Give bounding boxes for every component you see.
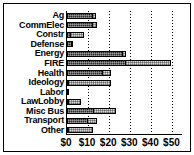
bar-energy bbox=[67, 51, 126, 57]
bar-segment-light bbox=[125, 60, 171, 66]
x-tick-usd-10: $10 bbox=[79, 137, 96, 148]
category-label-ag: Ag bbox=[9, 11, 64, 20]
bar-segment-light bbox=[68, 127, 93, 133]
category-label-lawlobby: LawLobby bbox=[9, 97, 64, 106]
bar-segment-dark bbox=[67, 70, 103, 76]
x-axis-tick-labels: $0$10$20$30$40$50 bbox=[66, 137, 182, 151]
bar-segment-dark bbox=[67, 89, 69, 95]
gridline-usd-40 bbox=[151, 11, 152, 134]
bar-misc-bus bbox=[67, 108, 116, 114]
bar-constr bbox=[67, 32, 84, 38]
category-label-fire: FIRE bbox=[9, 59, 64, 68]
bar-segment-dark bbox=[67, 118, 88, 124]
bar-segment-light bbox=[122, 51, 126, 57]
bar-segment-light bbox=[92, 22, 96, 28]
chart-screenshot: AgCommElecConstrDefenseEnergyFIREHealthI… bbox=[0, 0, 194, 155]
bar-health bbox=[67, 70, 111, 76]
bar-ag bbox=[67, 13, 96, 19]
x-tick-usd-40: $40 bbox=[142, 137, 159, 148]
bar-ideology bbox=[67, 80, 111, 86]
bar-segment-dark bbox=[67, 13, 93, 19]
bar-segment-dark bbox=[67, 108, 94, 114]
category-axis-labels: AgCommElecConstrDefenseEnergyFIREHealthI… bbox=[9, 11, 64, 135]
category-label-constr: Constr bbox=[9, 30, 64, 39]
x-tick-usd-0: $0 bbox=[60, 137, 71, 148]
bar-segment-dark bbox=[67, 51, 123, 57]
bar-defense bbox=[67, 41, 73, 47]
category-label-other: Other bbox=[9, 126, 64, 135]
gridline-usd-30 bbox=[130, 11, 131, 134]
bar-lawlobby bbox=[67, 99, 81, 105]
bar-segment-dark bbox=[67, 60, 126, 66]
x-tick-usd-30: $30 bbox=[121, 137, 138, 148]
bar-transport bbox=[67, 118, 97, 124]
bar-segment-light bbox=[70, 32, 84, 38]
chart-frame: AgCommElecConstrDefenseEnergyFIREHealthI… bbox=[3, 3, 191, 152]
bar-labor bbox=[67, 89, 69, 95]
bar-segment-light bbox=[68, 80, 111, 86]
bar-segment-light bbox=[93, 108, 115, 114]
bar-commelec bbox=[67, 22, 97, 28]
bar-segment-light bbox=[87, 118, 96, 124]
category-label-ideology: Ideology bbox=[9, 78, 64, 87]
plot-area bbox=[66, 11, 182, 135]
bar-other bbox=[67, 127, 93, 133]
bar-fire bbox=[67, 60, 171, 66]
bar-segment-dark bbox=[67, 22, 93, 28]
gridline-usd-50 bbox=[172, 11, 173, 134]
bar-segment-light bbox=[92, 13, 95, 19]
bar-segment-light bbox=[68, 99, 81, 105]
x-tick-usd-50: $50 bbox=[163, 137, 180, 148]
bar-segment-light bbox=[102, 70, 111, 76]
x-tick-usd-20: $20 bbox=[100, 137, 117, 148]
category-label-transport: Transport bbox=[9, 116, 64, 125]
bar-segment-light bbox=[71, 41, 73, 47]
